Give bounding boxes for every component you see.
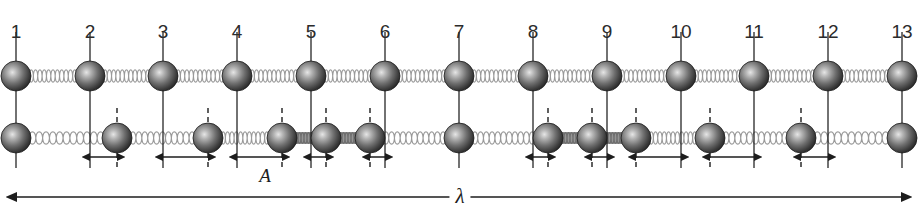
particle-number-2: 2 xyxy=(85,22,96,41)
particle-number-9: 9 xyxy=(602,22,613,41)
sphere-body xyxy=(887,61,917,91)
spring-12-13 xyxy=(841,70,889,82)
spring-1-2 xyxy=(29,70,77,82)
spring-6-7 xyxy=(383,132,446,144)
sphere-disp-2 xyxy=(102,123,132,153)
particle-number-11: 11 xyxy=(744,22,764,41)
spring-4-5 xyxy=(250,70,298,82)
sphere-body xyxy=(518,61,548,91)
sphere-disp-9 xyxy=(577,123,607,153)
sphere-eq-12 xyxy=(813,61,843,91)
sphere-eq-4 xyxy=(222,61,252,91)
sphere-body xyxy=(296,61,326,91)
wavelength-label: λ xyxy=(449,186,470,207)
sphere-eq-7 xyxy=(444,61,474,91)
sphere-disp-10 xyxy=(621,123,651,153)
sphere-body xyxy=(355,123,385,153)
sphere-eq-3 xyxy=(148,61,178,91)
particle-number-3: 3 xyxy=(158,22,169,41)
spring-10-11 xyxy=(649,132,697,144)
sphere-disp-7 xyxy=(444,123,474,153)
sphere-body xyxy=(193,123,223,153)
particle-number-4: 4 xyxy=(232,22,243,41)
spring-11-12 xyxy=(723,132,788,144)
spring-5-6 xyxy=(339,133,357,144)
spring-4-5 xyxy=(295,133,313,144)
sphere-eq-9 xyxy=(592,61,622,91)
spring-1-2 xyxy=(29,132,104,144)
sphere-disp-3 xyxy=(193,123,223,153)
sphere-eq-13 xyxy=(887,61,917,91)
sphere-disp-11 xyxy=(695,123,725,153)
spring-8-9 xyxy=(546,70,594,82)
sphere-body xyxy=(695,123,725,153)
sphere-disp-8 xyxy=(533,123,563,153)
sphere-body xyxy=(1,123,31,153)
particle-number-8: 8 xyxy=(528,22,539,41)
spring-10-11 xyxy=(694,70,741,82)
sphere-eq-2 xyxy=(75,61,105,91)
sphere-body xyxy=(533,123,563,153)
sphere-eq-1 xyxy=(1,61,31,91)
sphere-body xyxy=(444,123,474,153)
sphere-body xyxy=(222,61,252,91)
spring-12-13 xyxy=(814,132,889,144)
spring-7-8 xyxy=(472,70,520,82)
amplitude-label: A xyxy=(259,166,271,185)
particle-number-7: 7 xyxy=(454,22,465,41)
longitudinal-wave-figure: 12345678910111213 A λ xyxy=(0,0,921,215)
particle-number-1: 1 xyxy=(11,22,22,41)
sphere-body xyxy=(370,61,400,91)
sphere-body xyxy=(102,123,132,153)
sphere-body xyxy=(75,61,105,91)
particle-number-6: 6 xyxy=(380,22,391,41)
sphere-body xyxy=(666,61,696,91)
sphere-eq-5 xyxy=(296,61,326,91)
sphere-body xyxy=(577,123,607,153)
particle-number-5: 5 xyxy=(306,22,317,41)
spring-3-4 xyxy=(176,70,224,82)
spring-11-12 xyxy=(767,70,815,82)
spring-3-4 xyxy=(221,132,269,144)
spring-9-10 xyxy=(620,70,668,82)
particle-number-13: 13 xyxy=(891,22,912,41)
sphere-disp-5 xyxy=(311,123,341,153)
spring-7-8 xyxy=(472,132,535,144)
sphere-body xyxy=(887,123,917,153)
spring-6-7 xyxy=(398,70,446,82)
spring-8-9 xyxy=(561,133,579,144)
sphere-body xyxy=(813,61,843,91)
spring-2-3 xyxy=(103,70,150,82)
sphere-body xyxy=(786,123,816,153)
sphere-body xyxy=(621,123,651,153)
sphere-body xyxy=(592,61,622,91)
sphere-body xyxy=(444,61,474,91)
sphere-body xyxy=(1,61,31,91)
sphere-body xyxy=(311,123,341,153)
sphere-eq-10 xyxy=(666,61,696,91)
sphere-body xyxy=(148,61,178,91)
sphere-disp-6 xyxy=(355,123,385,153)
sphere-disp-4 xyxy=(267,123,297,153)
spring-9-10 xyxy=(605,133,623,144)
sphere-group-displaced xyxy=(1,123,917,153)
sphere-disp-13 xyxy=(887,123,917,153)
sphere-eq-6 xyxy=(370,61,400,91)
sphere-eq-8 xyxy=(518,61,548,91)
spring-5-6 xyxy=(324,70,372,82)
sphere-disp-1 xyxy=(1,123,31,153)
sphere-body xyxy=(267,123,297,153)
sphere-eq-11 xyxy=(739,61,769,91)
sphere-disp-12 xyxy=(786,123,816,153)
sphere-body xyxy=(739,61,769,91)
particle-number-10: 10 xyxy=(670,22,691,41)
particle-number-12: 12 xyxy=(817,22,838,41)
